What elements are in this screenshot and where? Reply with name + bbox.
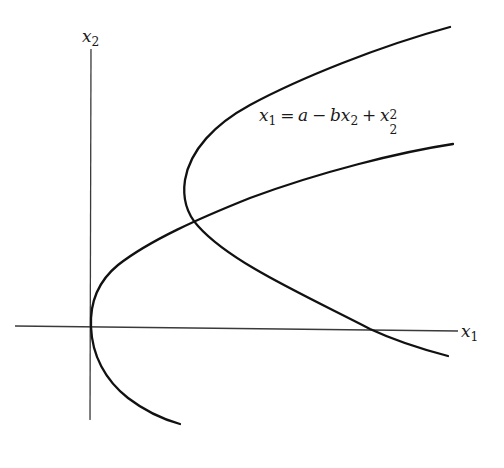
- x1-label-sub: 1: [471, 330, 479, 344]
- eq-term-b: b: [330, 105, 341, 125]
- eq-term-bx-var: x: [341, 105, 351, 125]
- x1-label-var: x: [461, 321, 471, 341]
- x2-label-sub: 2: [92, 35, 100, 49]
- curve-second-parabola: [91, 144, 453, 424]
- eq-equals: =: [276, 105, 298, 125]
- eq-term-sq-var: x: [380, 105, 390, 125]
- x1-axis-label: x1: [461, 323, 478, 340]
- phase-diagram: [0, 0, 504, 468]
- eq-term-a: a: [298, 105, 308, 125]
- eq-term-sq-sub: 2: [390, 124, 398, 136]
- eq-lhs-sub: 1: [269, 114, 277, 128]
- eq-term-sq-sup: 2: [390, 109, 398, 121]
- eq-lhs-var: x: [259, 105, 269, 125]
- curve-equation-label: x1=a−bx2+x22: [259, 107, 398, 124]
- x1-axis: [15, 326, 458, 331]
- eq-plus: +: [358, 105, 380, 125]
- eq-minus: −: [308, 105, 330, 125]
- x2-axis: [90, 49, 91, 420]
- curve-equation-parabola: [184, 27, 450, 356]
- eq-term-bx-sub: 2: [350, 114, 358, 128]
- x2-axis-label: x2: [82, 28, 99, 45]
- x2-label-var: x: [82, 26, 92, 46]
